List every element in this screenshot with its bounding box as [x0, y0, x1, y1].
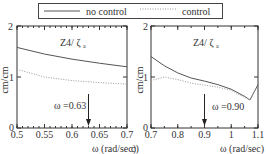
x-tick-label: 0.7: [121, 129, 134, 140]
legend-label-no-control: no control: [86, 6, 127, 17]
right-panel-title-sub: a: [216, 43, 219, 49]
right-annotation: ω =0.90: [212, 101, 244, 112]
x-tick-label: 0.6: [66, 129, 79, 140]
left-ytick-1: 1: [9, 72, 14, 83]
series-control: [17, 69, 127, 84]
x-tick-label: 0.55: [36, 129, 54, 140]
x-tick-label: 1: [229, 129, 234, 140]
x-tick-label: 0.65: [91, 129, 109, 140]
left-panel-title: Z4/ ζ: [60, 37, 81, 49]
left-panel: 0.50.550.60.650.7 cm/cm 2 1 0 Z4/ ζ a ω …: [0, 21, 133, 140]
right-ytick-2: 2: [143, 21, 148, 32]
left-ytick-2: 2: [8, 21, 13, 32]
series-no-control: [151, 57, 258, 100]
figure: no control control 0.50.550.60.650.7 cm/…: [0, 0, 266, 154]
right-x-axis-label: ω (rad/sec): [220, 143, 264, 154]
right-panel: 0.70.80.911.1 cm/cm 2 1 0 Z4/ ζ a ω =0.9…: [134, 21, 264, 140]
legend-label-control: control: [182, 6, 211, 17]
panel-letter: c): [131, 143, 139, 154]
right-ytick-1: 1: [143, 72, 148, 83]
x-tick-label: 0.8: [172, 129, 185, 140]
x-tick-label: 0.9: [198, 129, 211, 140]
left-x-axis-label: ω (rad/sec): [92, 143, 136, 154]
right-ytick-0: 0: [143, 122, 148, 133]
left-annotation: ω =0.63: [54, 100, 86, 111]
legend: no control control: [39, 4, 223, 19]
right-panel-title: Z4/ ζ: [193, 37, 214, 49]
left-panel-title-sub: a: [83, 43, 86, 49]
series-no-control: [17, 47, 127, 66]
left-ytick-0: 0: [9, 122, 14, 133]
x-tick-label: 1.1: [252, 129, 265, 140]
